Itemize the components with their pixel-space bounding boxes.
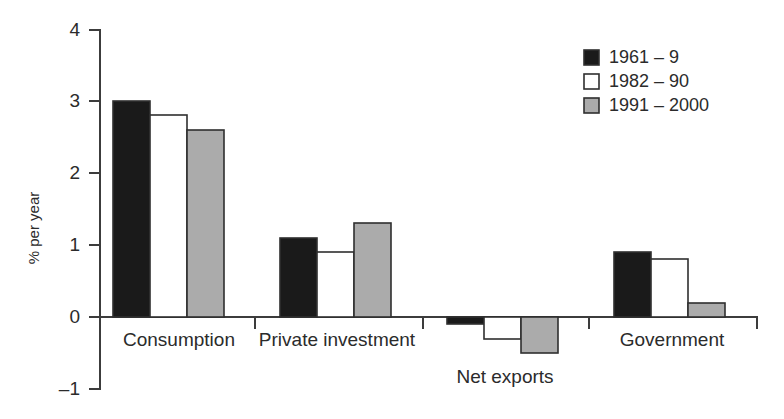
bar-government-1961-9 [614, 252, 651, 317]
bar-private-investment-1961-9 [280, 238, 317, 317]
bar-consumption-1982-90 [150, 115, 187, 317]
bar-group-private-investment [280, 223, 391, 317]
bar-consumption-1961-9 [113, 101, 150, 317]
bar-net-exports-1991-2000 [521, 317, 558, 353]
legend-item-1991-2000: 1991 – 2000 [584, 95, 709, 115]
legend-swatch-1961-9 [584, 50, 599, 65]
category-label-consumption: Consumption [123, 329, 235, 350]
legend-item-1982-90: 1982 – 90 [584, 71, 689, 91]
category-label-government: Government [620, 329, 725, 350]
legend-label-1982-90: 1982 – 90 [609, 71, 689, 91]
y-tick-label-neg1: –1 [59, 378, 80, 399]
bar-net-exports-1982-90 [484, 317, 521, 339]
legend-item-1961-9: 1961 – 9 [584, 47, 679, 67]
legend-label-1961-9: 1961 – 9 [609, 47, 679, 67]
category-label-private-investment: Private investment [259, 329, 416, 350]
x-axis [100, 317, 757, 329]
legend-label-1991-2000: 1991 – 2000 [609, 95, 709, 115]
category-label-net-exports: Net exports [456, 366, 553, 387]
chart-canvas: 4 3 2 1 0 –1 % per year [0, 0, 784, 419]
bar-chart-figure: 4 3 2 1 0 –1 % per year [0, 0, 784, 419]
y-tick-label-4: 4 [69, 19, 80, 40]
bar-consumption-1991-2000 [187, 130, 224, 317]
legend-swatch-1982-90 [584, 74, 599, 89]
bar-private-investment-1991-2000 [354, 223, 391, 317]
y-tick-label-0: 0 [69, 306, 80, 327]
y-axis-tick-labels: 4 3 2 1 0 –1 [59, 19, 81, 399]
y-tick-label-2: 2 [69, 162, 80, 183]
bar-private-investment-1982-90 [317, 252, 354, 317]
y-tick-label-1: 1 [69, 234, 80, 255]
y-tick-label-3: 3 [69, 90, 80, 111]
legend-swatch-1991-2000 [584, 98, 599, 113]
bar-government-1982-90 [651, 259, 688, 317]
chart-legend: 1961 – 9 1982 – 90 1991 – 2000 [584, 47, 709, 115]
bar-group-consumption [113, 101, 224, 317]
x-axis-category-labels: Consumption Private investment Net expor… [123, 329, 725, 387]
y-axis-ticks [89, 30, 100, 389]
y-axis-title: % per year [25, 192, 42, 265]
bar-net-exports-1961-9 [447, 317, 484, 324]
bar-group-government [614, 252, 725, 317]
y-axis: 4 3 2 1 0 –1 % per year [25, 19, 100, 399]
bar-group-net-exports [447, 317, 558, 353]
bar-government-1991-2000 [688, 303, 725, 317]
